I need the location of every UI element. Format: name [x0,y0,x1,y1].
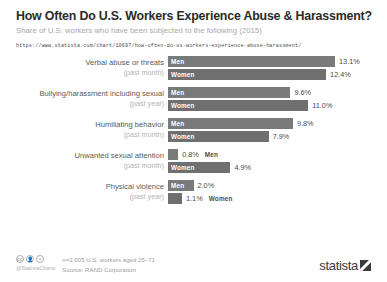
bar-value-label: 9.6% [294,88,311,97]
bar-series-label: Men [171,182,184,189]
bar-value-label: 9.8% [297,119,314,128]
bar-series-label: Women [171,102,195,109]
bar-value-label: 4.9% [234,163,251,172]
bar-group: Men9.8%Women7.9% [168,118,379,142]
bar-row: Men9.8% [168,118,379,129]
chart-group: Unwanted sexual attention(past month)0.8… [16,149,379,173]
category-label: Unwanted sexual attention(past month) [16,151,168,171]
by-icon: 👤 [26,255,34,263]
footer-notes: n=2,005 U.S. workers aged 25–71 Source: … [62,255,155,274]
bar-group: Men2.0%1.1%Women [168,180,379,204]
statista-handle: @StatistaCharts [16,265,55,271]
nd-icon: = [36,255,44,263]
bar-men[interactable] [168,149,178,160]
category-label: Humiliating behavior(past month) [16,120,168,140]
bar-women[interactable]: Women [168,100,308,111]
bar-series-label: Men [171,58,184,65]
bar-value-label: 7.9% [273,132,290,141]
statista-logo-mark [360,260,371,271]
category-label-main: Unwanted sexual attention [16,151,164,161]
bar-group: Men13.1%Women12.4% [168,56,379,80]
chart-group: Physical violence(past year)Men2.0%1.1%W… [16,180,379,204]
bar-women[interactable]: Women [168,131,269,142]
bar-value-label: 0.8% [182,150,199,159]
bar-value-label: 11.0% [312,101,332,110]
bar-row: Women12.4% [168,69,379,80]
bar-series-label: Men [171,120,184,127]
category-label-period: (past month) [16,68,164,78]
chart-title: How Often Do U.S. Workers Experience Abu… [16,9,371,23]
category-label-main: Humiliating behavior [16,120,164,130]
creative-commons-block: cc 👤 = @StatistaCharts [16,255,55,271]
bar-group: 0.8%MenWomen4.9% [168,149,379,173]
bar-row: Men2.0% [168,180,379,191]
bar-group: Men9.6%Women11.0% [168,87,379,111]
bar-series-label: Women [171,71,195,78]
bar-value-label: 13.1% [339,57,360,66]
category-label: Bullying/harassment including sexual(pas… [16,89,168,109]
sample-size-note: n=2,005 U.S. workers aged 25–71 [62,255,155,264]
bar-series-label: Women [171,133,195,140]
bar-value-label: 12.4% [330,70,351,79]
chart-footer: cc 👤 = @StatistaCharts n=2,005 U.S. work… [0,255,387,274]
bar-row: 0.8%Men [168,149,379,160]
bar-row: Women4.9% [168,162,379,173]
bar-series-label: Men [205,151,218,158]
category-label-main: Verbal abuse or threats [16,58,164,68]
bar-series-label: Men [171,89,184,96]
category-label-period: (past year) [16,99,164,109]
category-label-main: Bullying/harassment including sexual [16,89,164,99]
bar-men[interactable]: Men [168,118,293,129]
bar-value-label: 2.0% [198,181,215,190]
bar-men[interactable]: Men [168,180,194,191]
chart-plot-area: Verbal abuse or threats(past month)Men13… [0,56,387,204]
bar-row: Women11.0% [168,100,379,111]
bar-women[interactable]: Women [168,69,326,80]
source-note: Source: RAND Corporation [62,265,155,274]
bar-row: Men13.1% [168,56,379,67]
chart-header: How Often Do U.S. Workers Experience Abu… [0,0,387,49]
bar-women[interactable] [168,193,182,204]
bar-row: Men9.6% [168,87,379,98]
category-label: Physical violence(past year) [16,182,168,202]
bar-men[interactable]: Men [168,87,290,98]
bar-women[interactable]: Women [168,162,230,173]
chart-group: Humiliating behavior(past month)Men9.8%W… [16,118,379,142]
bar-men[interactable]: Men [168,56,335,67]
category-label-main: Physical violence [16,182,164,192]
bar-row: Women7.9% [168,131,379,142]
chart-source-url: https://www.statista.com/chart/10697/how… [16,43,371,49]
category-label: Verbal abuse or threats(past month) [16,58,168,78]
statista-infographic: How Often Do U.S. Workers Experience Abu… [0,0,387,282]
chart-subtitle: Share of U.S. workers who have been subj… [16,26,371,35]
category-label-period: (past month) [16,130,164,140]
bar-series-label: Women [171,164,195,171]
chart-group: Verbal abuse or threats(past month)Men13… [16,56,379,80]
statista-wordmark: statista [319,258,358,273]
bar-series-label: Women [209,195,233,202]
bar-value-label: 1.1% [186,194,203,203]
statista-logo: statista [319,258,371,274]
bar-row: 1.1%Women [168,193,379,204]
category-label-period: (past year) [16,192,164,202]
chart-group: Bullying/harassment including sexual(pas… [16,87,379,111]
category-label-period: (past month) [16,161,164,171]
cc-icon: cc [16,255,24,263]
cc-icon-group: cc 👤 = [16,255,55,263]
